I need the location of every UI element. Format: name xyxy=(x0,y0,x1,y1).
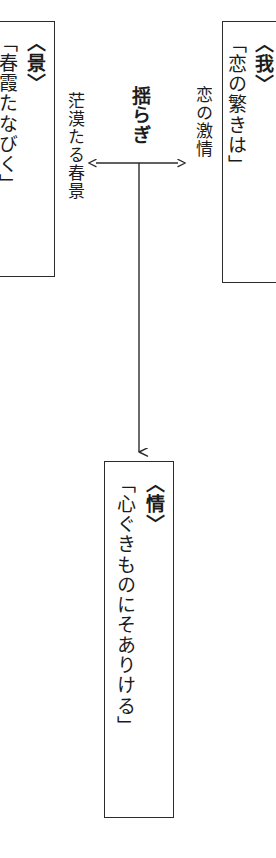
node-quote-jou: 「心ぐきものにそありける」 xyxy=(111,474,138,736)
annotation-center-yuragi: 揺らぎ xyxy=(126,86,153,144)
node-box-jou: 〈情〉 「心ぐきものにそありける」 xyxy=(104,461,174,818)
annotation-right-koi: 恋の激情 xyxy=(190,86,215,158)
node-tag-jou: 〈情〉 xyxy=(140,474,167,534)
node-quote-kei: 「春霞たなびく」 xyxy=(0,33,20,194)
node-tag-kei: 〈景〉 xyxy=(21,33,48,93)
node-tag-ware: 〈我〉 xyxy=(249,34,276,94)
annotation-left-boubaku: 茫漠たる春景 xyxy=(62,92,87,200)
diagram-canvas: 〈景〉 「春霞たなびく」 〈我〉 「恋の繁きは」 〈情〉 「心ぐきものにそありけ… xyxy=(0,0,276,858)
node-box-kei: 〈景〉 「春霞たなびく」 xyxy=(0,21,55,277)
node-quote-ware: 「恋の繁きは」 xyxy=(222,34,249,175)
node-box-ware: 〈我〉 「恋の繁きは」 xyxy=(222,21,276,283)
